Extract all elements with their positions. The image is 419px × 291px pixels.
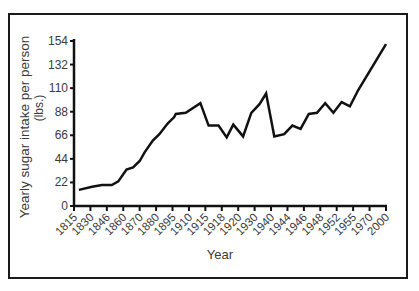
data-line bbox=[79, 44, 386, 190]
y-tick-label: 66 bbox=[55, 128, 69, 142]
y-tick-label: 44 bbox=[55, 152, 69, 166]
y-tick-label: 154 bbox=[48, 34, 68, 48]
y-tick-label: 88 bbox=[55, 105, 69, 119]
plot-area: 0224466881101321541815183018461860187018… bbox=[48, 34, 391, 238]
y-tick-label: 132 bbox=[48, 58, 68, 72]
line-chart: 0224466881101321541815183018461860187018… bbox=[0, 0, 419, 291]
y-tick-label: 22 bbox=[55, 175, 69, 189]
y-axis-unit-label: (lbs.) bbox=[32, 95, 46, 122]
y-tick-label: 110 bbox=[49, 81, 68, 95]
y-axis-label: Yearly sugar intake per person bbox=[17, 36, 32, 219]
x-axis-label: Year bbox=[207, 247, 234, 262]
y-tick-label: 0 bbox=[61, 199, 68, 213]
